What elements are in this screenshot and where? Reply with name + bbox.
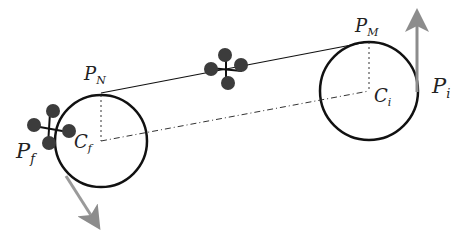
label-c-i: Ci: [374, 85, 391, 109]
label-c-f: Cf: [74, 131, 94, 155]
center-line: [101, 91, 369, 141]
drone-icon-middle: [204, 48, 248, 90]
label-p-f: Pf: [15, 139, 37, 166]
trajectory-diagram: PN PM Cf Ci Pf Pi: [0, 0, 466, 241]
diagram-canvas: PN PM Cf Ci Pf Pi: [0, 0, 466, 241]
drone-icon-final: [27, 104, 76, 150]
label-p-n: PN: [83, 63, 106, 87]
label-p-m: PM: [354, 15, 379, 39]
label-p-i: Pi: [431, 74, 450, 101]
